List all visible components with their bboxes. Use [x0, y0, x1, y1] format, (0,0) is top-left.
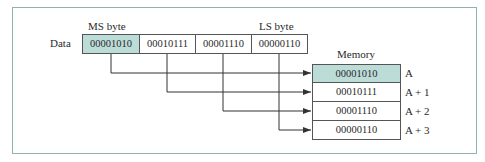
address-0: A: [405, 67, 413, 80]
memory-cell-2: 00001110: [312, 101, 401, 121]
memory-label: Memory: [337, 48, 375, 61]
address-2: A + 2: [405, 105, 430, 118]
memory-cell-1: 00010111: [312, 82, 401, 102]
memory-cell-0: 00001010: [312, 64, 401, 83]
data-byte-2: 00001110: [195, 34, 252, 54]
memory-cell-3: 00000110: [312, 120, 401, 140]
data-label: Data: [50, 37, 71, 50]
data-byte-1: 00010111: [139, 34, 196, 54]
ms-byte-label: MS byte: [88, 20, 126, 33]
address-1: A + 1: [405, 86, 430, 99]
data-byte-0: 00001010: [82, 34, 140, 54]
address-3: A + 3: [405, 124, 430, 137]
connector-arrows: [0, 0, 485, 162]
ls-byte-label: LS byte: [259, 20, 294, 33]
data-byte-3: 00000110: [251, 34, 308, 54]
